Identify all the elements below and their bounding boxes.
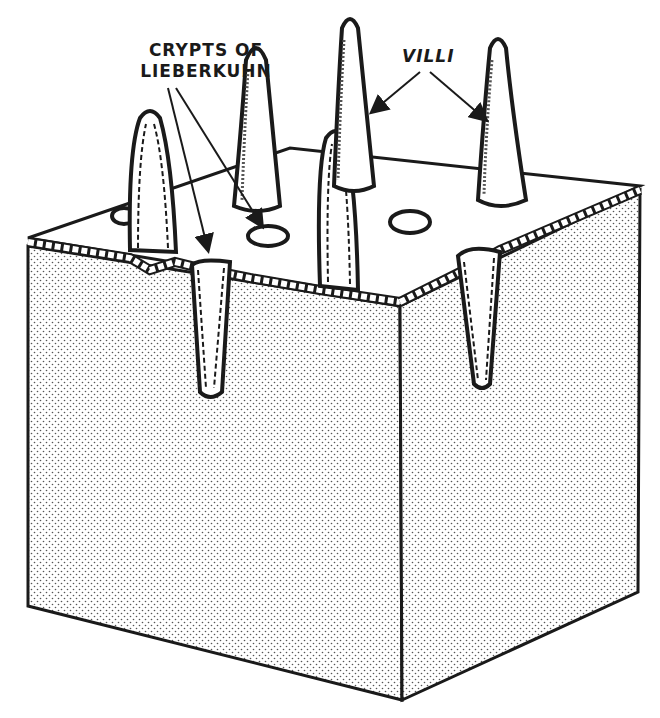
villi-label: VILLI xyxy=(402,46,454,67)
crypts-of-lieberkuhn-label: CRYPTS OF LIEBERKUHN xyxy=(106,40,306,82)
crypt-section-front xyxy=(192,261,230,397)
villi-block-illustration xyxy=(0,0,660,718)
crypts-label-line-2: LIEBERKUHN xyxy=(106,61,306,82)
crypt-opening xyxy=(390,211,430,233)
crypts-label-line-1: CRYPTS OF xyxy=(106,40,306,61)
crypt-opening xyxy=(248,226,288,246)
villus-section-left xyxy=(130,111,176,252)
diagram-canvas: CRYPTS OF LIEBERKUHN VILLI xyxy=(0,0,660,718)
villus xyxy=(334,19,374,191)
villi-pointers xyxy=(372,72,486,120)
villus xyxy=(478,39,526,206)
